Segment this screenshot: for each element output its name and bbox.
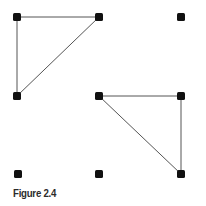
grid-dot-r2c1 (95, 170, 103, 178)
grid-dot-r0c1 (95, 13, 103, 21)
figure-caption: Figure 2.4 (13, 187, 56, 199)
grid-dot-r2c0 (14, 170, 22, 178)
dot-grid-figure (0, 0, 206, 206)
grid-dot-r2c2 (177, 170, 185, 178)
grid-dot-r0c2 (177, 13, 185, 21)
lower-right-triangle (99, 96, 181, 174)
grid-dot-r0c0 (13, 13, 21, 21)
grid-dot-r1c2 (177, 92, 185, 100)
grid-dot-r1c0 (13, 92, 21, 100)
grid-dot-r1c1 (95, 92, 103, 100)
upper-left-triangle (17, 17, 99, 96)
